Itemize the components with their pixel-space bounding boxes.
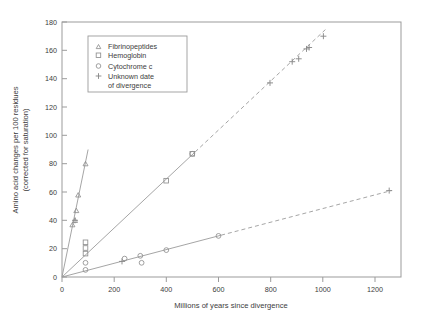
- legend-label: Hemoglobin: [108, 51, 146, 60]
- y-tick-label: 160: [45, 46, 57, 55]
- y-axis-title-line1: Amino acid changes per 100 residues: [11, 86, 20, 213]
- chart-background: [0, 0, 433, 316]
- chart-figure: 0 20 40 60 80 100 120 140 160 180 Amino …: [0, 0, 433, 316]
- legend-label-line2: of divergence: [108, 81, 151, 90]
- x-tick-label: 1000: [315, 285, 331, 294]
- y-axis-title-line2: (corrected for saturation): [21, 108, 30, 192]
- y-tick-label: 60: [49, 188, 57, 197]
- y-tick-label: 120: [45, 103, 57, 112]
- chart-legend: Fibrinopeptides Hemoglobin Cytochrome c …: [88, 36, 187, 92]
- y-tick-label: 100: [45, 131, 57, 140]
- legend-label: Cytochrome c: [108, 62, 153, 71]
- y-tick-label: 80: [49, 159, 57, 168]
- x-tick-label: 0: [60, 285, 64, 294]
- x-tick-label: 600: [213, 285, 225, 294]
- y-tick-label: 0: [53, 273, 57, 282]
- x-tick-label: 200: [108, 285, 120, 294]
- x-tick-label: 800: [265, 285, 277, 294]
- y-tick-label: 40: [49, 216, 57, 225]
- x-tick-label: 400: [160, 285, 172, 294]
- legend-label: Unknown date: [108, 72, 154, 81]
- y-tick-label: 140: [45, 74, 57, 83]
- molecular-clock-scatter-plot: 0 20 40 60 80 100 120 140 160 180 Amino …: [0, 0, 433, 316]
- x-axis-title: Millions of years since divergence: [174, 301, 288, 310]
- legend-label: Fibrinopeptides: [108, 42, 158, 51]
- x-tick-label: 1200: [367, 285, 383, 294]
- y-tick-label: 180: [45, 18, 57, 27]
- y-tick-label: 20: [49, 244, 57, 253]
